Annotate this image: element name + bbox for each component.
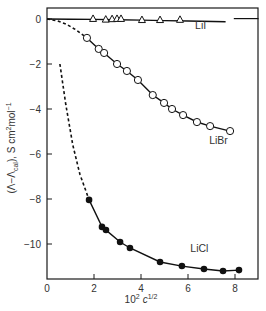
filled-circle-marker [127, 245, 134, 252]
open-circle-marker [160, 99, 167, 106]
x-tick-label: 2 [91, 283, 97, 294]
y-tick-label: 0 [35, 14, 41, 25]
x-tick-label: 8 [232, 283, 238, 294]
extrapolation-dashed-line [47, 19, 87, 38]
series-label-licl: LiCl [190, 242, 208, 254]
open-circle-marker [123, 67, 130, 74]
open-circle-marker [101, 49, 108, 56]
triangle-marker [90, 15, 97, 21]
open-circle-marker [149, 91, 156, 98]
filled-circle-marker [201, 266, 208, 273]
x-label-base-sup: 2 [136, 293, 140, 300]
open-circle-marker [168, 105, 175, 112]
x-tick-label: 0 [44, 283, 50, 294]
open-circle-marker [193, 118, 200, 125]
x-tick-label: 6 [185, 283, 191, 294]
y-tick-label: −8 [30, 194, 42, 205]
series-label-libr: LiBr [209, 134, 228, 146]
filled-circle-marker [236, 267, 243, 274]
filled-circle-marker [117, 239, 124, 246]
fit-line [89, 200, 239, 271]
y-tick-label: −4 [30, 104, 42, 115]
fit-line [87, 38, 230, 131]
y-label-sup2: −1 [5, 102, 12, 110]
filled-circle-marker [103, 227, 110, 234]
series-libr [47, 19, 234, 135]
filled-circle-marker [86, 197, 93, 204]
series-lii [47, 15, 259, 23]
extrapolation-dashed-line [60, 64, 89, 200]
open-circle-marker [113, 60, 120, 67]
axis-ticks [47, 19, 235, 279]
x-axis-label: 102c1/2 [125, 293, 158, 305]
y-axis-label: (Λ−Λcal), S cm2mol−1 [5, 102, 19, 193]
series-label-lii: LiI [195, 19, 206, 31]
triangle-marker [138, 16, 145, 23]
y-label-post: ), S cm [6, 130, 17, 162]
open-circle-marker [206, 123, 213, 130]
series-labels: LiILiBrLiCl [190, 19, 228, 254]
chart: 024680−2−4−6−8−10 LiILiBrLiCl 102c1/2 (Λ… [0, 0, 266, 311]
filled-circle-marker [179, 263, 186, 270]
filled-circle-marker [220, 268, 227, 275]
triangle-marker [157, 16, 164, 23]
x-label-base: 10 [125, 294, 137, 305]
open-circle-marker [134, 76, 141, 83]
y-tick-label: −10 [24, 239, 41, 250]
open-circle-marker [179, 111, 186, 118]
y-tick-label: −6 [30, 149, 42, 160]
y-label-mid: mol [6, 110, 17, 126]
y-label-pre: (Λ−Λ [6, 171, 17, 194]
open-circle-marker [83, 34, 90, 41]
filled-circle-marker [157, 259, 164, 266]
x-label-var-sup: 1/2 [148, 293, 158, 300]
triangle-marker [177, 16, 184, 22]
y-tick-label: −2 [30, 59, 42, 70]
